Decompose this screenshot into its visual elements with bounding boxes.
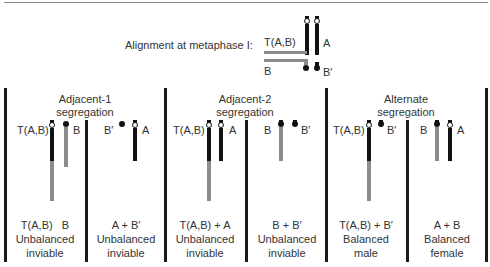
result-viability: female xyxy=(430,247,463,260)
result-viability: inviable xyxy=(107,247,144,260)
panel-title: segregation xyxy=(56,106,114,119)
label-a: A xyxy=(323,37,330,50)
panel-title: Alternate xyxy=(384,93,428,106)
chromosome-segment-a xyxy=(207,128,211,161)
chromosome-label: B xyxy=(264,124,271,137)
chromosome-label: B′ xyxy=(301,124,310,137)
result-genotype: A + B xyxy=(434,219,461,232)
chromosome-b xyxy=(64,127,68,167)
panel-title: Adjacent-2 xyxy=(219,93,272,106)
gamete-divider xyxy=(245,120,248,262)
chromosome-b xyxy=(435,127,439,161)
chromosome-a xyxy=(315,24,319,55)
top-rule xyxy=(4,2,488,3)
centromere-filled-icon xyxy=(119,121,125,127)
chromosome-label: B′ xyxy=(387,124,396,137)
panel-divider xyxy=(164,88,167,262)
chromosome-label: A xyxy=(229,124,236,137)
result-genotype: B + B′ xyxy=(272,219,301,232)
result-balance: Unbalanced xyxy=(258,233,317,246)
centromere-filled-icon xyxy=(378,121,384,127)
chromosome-segment-a xyxy=(367,128,371,161)
chromosome-label: T(A,B) xyxy=(173,124,205,137)
metaphase-label: Alignment at metaphase I: xyxy=(125,39,253,52)
chromosome-translocation-b-segment xyxy=(264,51,307,54)
chromosome-b xyxy=(279,127,283,161)
result-viability: inviable xyxy=(268,247,305,260)
chromosome-a xyxy=(133,128,137,161)
centromere-filled-icon xyxy=(314,65,320,71)
panel-title: Adjacent-1 xyxy=(59,93,112,106)
result-balance: Balanced xyxy=(343,233,389,246)
panel-divider xyxy=(485,88,488,262)
chromosome-label: T(A,B) xyxy=(17,124,49,137)
result-balance: Balanced xyxy=(424,233,470,246)
panel-divider xyxy=(4,88,7,262)
chromosome-a xyxy=(448,128,452,161)
result-balance: Unbalanced xyxy=(16,233,75,246)
panel-divider xyxy=(325,88,328,262)
result-balance: Unbalanced xyxy=(97,233,156,246)
result-genotype: T(A,B) B xyxy=(21,219,69,232)
chromosome-segment-b xyxy=(207,161,211,201)
gamete-divider xyxy=(406,120,409,262)
chromosome-a xyxy=(219,128,223,161)
result-viability: inviable xyxy=(26,247,63,260)
chromosome-label: B xyxy=(420,124,427,137)
result-viability: inviable xyxy=(186,247,223,260)
chromosome-label: T(A,B) xyxy=(333,124,365,137)
panel-title: segregation xyxy=(216,106,274,119)
chromosome-label: B xyxy=(73,124,80,137)
chromosome-b xyxy=(264,59,305,62)
chromosome-label: A xyxy=(142,124,149,137)
label-b: B xyxy=(264,65,271,78)
gamete-divider xyxy=(85,120,88,262)
centromere-filled-icon xyxy=(292,121,298,127)
result-balance: Unbalanced xyxy=(176,233,235,246)
panel-title: segregation xyxy=(377,106,435,119)
result-genotype: A + B′ xyxy=(112,219,141,232)
chromosome-segment-b xyxy=(50,161,54,201)
result-viability: male xyxy=(354,247,378,260)
chromosome-segment-b xyxy=(367,161,371,201)
label-b-prime: B′ xyxy=(323,66,332,79)
result-genotype: T(A,B) + A xyxy=(179,219,230,232)
chromosome-segment-a xyxy=(50,128,54,161)
label-translocation: T(A,B) xyxy=(264,36,296,49)
chromosome-label: B′ xyxy=(104,124,113,137)
chromosome-label: A xyxy=(457,124,464,137)
result-genotype: T(A,B) + B′ xyxy=(339,219,393,232)
centromere-filled-icon xyxy=(303,65,309,71)
